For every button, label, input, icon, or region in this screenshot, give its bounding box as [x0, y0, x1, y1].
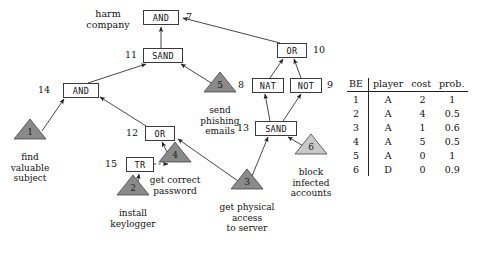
gate-id-12: 12	[126, 127, 138, 138]
attack-defense-tree-figure: AND7SAND11AND14OR12TR15OR10NAT8NOT9SAND1…	[0, 0, 477, 254]
th-prob: prob.	[435, 78, 468, 92]
leaf-node-1[interactable]: 1	[13, 118, 47, 140]
table-row: 4A50.5	[347, 134, 468, 148]
cell-be: 2	[347, 106, 368, 120]
root-label: harmcompany	[78, 8, 138, 30]
table-header-row: BE player cost prob.	[347, 78, 468, 92]
gate-and-14[interactable]: AND	[63, 83, 99, 98]
be-table-element: BE player cost prob. 1A212A40.53A10.64A5…	[347, 78, 468, 176]
gate-tr-15[interactable]: TR	[126, 157, 154, 172]
table-row: 5A01	[347, 148, 468, 162]
leaf-label-2: installkeylogger	[73, 208, 193, 229]
gate-not-9[interactable]: NOT	[290, 78, 322, 93]
th-cost: cost	[407, 78, 435, 92]
cell-be: 6	[347, 162, 368, 176]
leaf-label-4: get correctpassword	[115, 175, 235, 196]
leaf-number-5: 5	[203, 80, 237, 90]
cell-be: 1	[347, 92, 368, 107]
table-row: 2A40.5	[347, 106, 468, 120]
cell-cost: 5	[407, 134, 435, 148]
gate-id-11: 11	[125, 49, 137, 60]
cell-prob: 0.5	[435, 106, 468, 120]
gate-id-9: 9	[327, 79, 333, 90]
edge-10-to-7	[183, 18, 280, 43]
cell-prob: 0.6	[435, 120, 468, 134]
cell-cost: 1	[407, 120, 435, 134]
leaf-label-3: get physicalaccessto server	[187, 202, 307, 234]
th-player: player	[368, 78, 407, 92]
cell-be: 5	[347, 148, 368, 162]
edge-12-to-14	[100, 97, 146, 126]
cell-player: A	[368, 134, 407, 148]
edge-14-to-11	[88, 64, 146, 83]
gate-or-10[interactable]: OR	[277, 43, 307, 58]
gate-id-15: 15	[105, 158, 117, 169]
cell-player: D	[368, 162, 407, 176]
cell-player: A	[368, 106, 407, 120]
edge-9-to-10	[294, 59, 301, 78]
leaf-number-4: 4	[158, 150, 192, 160]
basic-event-table: BE player cost prob. 1A212A40.53A10.64A5…	[347, 78, 468, 176]
gate-id-7: 7	[186, 11, 192, 22]
cell-cost: 0	[407, 162, 435, 176]
table-row: 6D00.9	[347, 162, 468, 176]
cell-prob: 0.5	[435, 134, 468, 148]
edge-8-to-10	[270, 59, 283, 78]
edge-13-to-9	[283, 94, 301, 121]
table-row: 3A10.6	[347, 120, 468, 134]
cell-player: A	[368, 148, 407, 162]
leaf-label-5: sendphishingemails	[160, 105, 280, 137]
cell-prob: 1	[435, 148, 468, 162]
cell-prob: 1	[435, 92, 468, 107]
leaf-label-1: findvaluablesubject	[0, 152, 90, 184]
cell-prob: 0.9	[435, 162, 468, 176]
table-body: 1A212A40.53A10.64A50.55A016D00.9	[347, 92, 468, 177]
cell-player: A	[368, 120, 407, 134]
table-row: 1A21	[347, 92, 468, 107]
leaf-number-6: 6	[294, 142, 328, 152]
cell-be: 3	[347, 120, 368, 134]
th-be: BE	[347, 78, 368, 92]
gate-nat-8[interactable]: NAT	[252, 78, 284, 93]
gate-id-10: 10	[313, 44, 325, 55]
gate-and-7[interactable]: AND	[143, 10, 179, 25]
cell-cost: 2	[407, 92, 435, 107]
leaf-number-1: 1	[13, 127, 47, 137]
gate-id-8: 8	[238, 79, 244, 90]
leaf-node-6[interactable]: 6	[294, 133, 328, 155]
gate-sand-11[interactable]: SAND	[143, 48, 183, 63]
gate-id-14: 14	[38, 84, 50, 95]
cell-cost: 0	[407, 148, 435, 162]
leaf-node-4[interactable]: 4	[158, 141, 192, 163]
cell-be: 4	[347, 134, 368, 148]
leaf-node-5[interactable]: 5	[203, 71, 237, 93]
cell-cost: 4	[407, 106, 435, 120]
cell-player: A	[368, 92, 407, 107]
